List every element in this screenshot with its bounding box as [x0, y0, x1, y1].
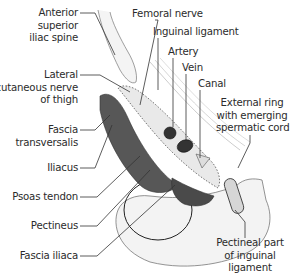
label-artery: Artery — [168, 46, 198, 59]
label-inguinal-ligament: Inguinal ligament — [153, 26, 239, 39]
label-lateral-cutaneous-nerve: Lateral cutaneous nerve of thigh — [0, 69, 78, 107]
label-psoas-tendon: Psoas tendon — [12, 191, 78, 204]
label-asis: Anterior superior iliac spine — [29, 7, 78, 45]
femoral-artery — [164, 127, 176, 139]
label-femoral-nerve: Femoral nerve — [132, 8, 203, 21]
iliac-spine — [98, 10, 137, 83]
label-external-ring: External ring with emerging spermatic co… — [216, 97, 288, 135]
label-pectineus: Pectineus — [31, 220, 78, 233]
label-vein: Vein — [182, 62, 203, 75]
label-fascia-transversalis: Fascia transversalis — [15, 124, 78, 149]
label-iliacus: Iliacus — [47, 162, 78, 175]
label-canal: Canal — [198, 78, 226, 91]
label-fascia-iliaca: Fascia iliaca — [20, 250, 78, 263]
label-pectineal-part: Pectineal part of inguinal ligament — [212, 237, 288, 275]
